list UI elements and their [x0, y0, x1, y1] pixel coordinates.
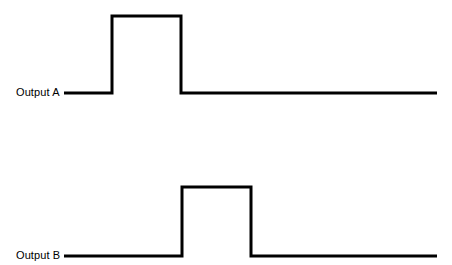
- timing-diagram-figure: Output A Output B: [0, 0, 452, 265]
- trace-label-output-a: Output A: [16, 86, 60, 98]
- waveform-output-a: [64, 16, 437, 93]
- timing-diagram-canvas: Output A Output B: [0, 0, 452, 265]
- trace-label-output-b: Output B: [16, 249, 60, 261]
- waveform-output-b: [64, 187, 437, 256]
